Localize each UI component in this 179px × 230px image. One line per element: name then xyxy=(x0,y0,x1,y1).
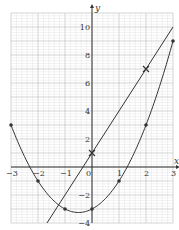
axes xyxy=(11,4,179,223)
data-point xyxy=(90,207,94,211)
y-tick-label: −4 xyxy=(78,219,90,228)
y-tick-label: 4 xyxy=(85,107,90,116)
data-point xyxy=(117,179,121,183)
y-tick-label: −2 xyxy=(78,191,90,200)
chart: −3−2−10123−4−2246810 x y xyxy=(0,0,179,230)
y-axis-arrow-icon xyxy=(90,4,94,8)
y-tick-label: 8 xyxy=(85,51,90,60)
data-point xyxy=(63,207,67,211)
data-point xyxy=(171,39,175,43)
x-tick-label: 0 xyxy=(86,169,91,178)
x-tick-label: 2 xyxy=(144,169,149,178)
y-tick-label: 2 xyxy=(85,135,90,144)
x-tick-label: −3 xyxy=(6,169,18,178)
x-tick-label: 3 xyxy=(171,169,176,178)
x-axis-label: x xyxy=(174,156,179,166)
y-tick-label: 6 xyxy=(85,79,90,88)
data-point xyxy=(144,123,148,127)
data-point xyxy=(9,123,13,127)
data-point xyxy=(36,179,40,183)
x-tick-label: −1 xyxy=(60,169,72,178)
y-tick-label: 10 xyxy=(80,23,90,32)
y-axis-label: y xyxy=(94,3,101,13)
tick-labels: −3−2−10123−4−2246810 xyxy=(6,23,176,228)
